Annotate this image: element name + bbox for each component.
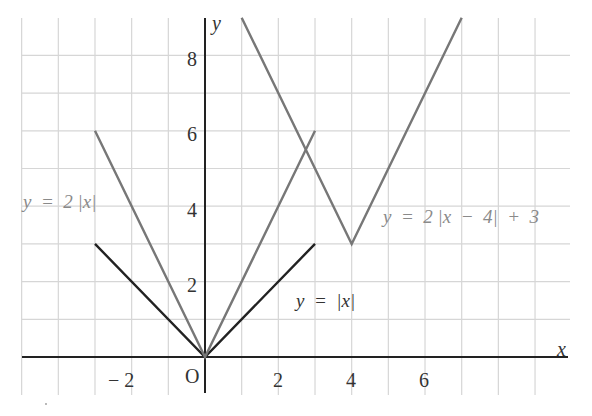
x-tick-6: 6 xyxy=(419,369,429,391)
x-tick-2: 2 xyxy=(273,369,283,391)
y-tick-2: 2 xyxy=(187,274,197,296)
origin-label: O xyxy=(185,365,199,387)
x-tick-neg2: − 2 xyxy=(108,369,134,391)
y-tick-4: 4 xyxy=(187,199,197,221)
x-tick-4: 4 xyxy=(346,369,356,391)
x-axis-label: x xyxy=(556,338,566,360)
label-y-abs-x: y = |x| xyxy=(294,290,355,311)
label-y-shifted: y = 2 |x − 4| + 3 xyxy=(381,206,539,227)
y-axis-label: y xyxy=(210,12,221,35)
label-y-2abs-x: y = 2 |x| xyxy=(21,191,96,212)
y-tick-8: 8 xyxy=(187,48,197,70)
stray-dot xyxy=(45,403,47,405)
y-tick-6: 6 xyxy=(187,123,197,145)
absolute-value-graph: x y O − 2 2 4 6 2 4 6 8 y = 2 |x| y = |x… xyxy=(0,0,592,416)
